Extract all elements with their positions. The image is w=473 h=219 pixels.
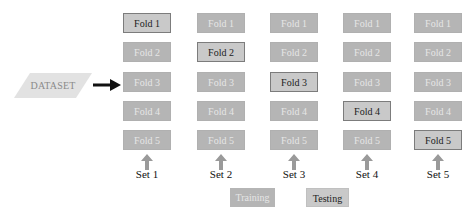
fold-box-set2-fold2: Fold 2 <box>197 42 245 62</box>
fold-box-set2-fold1: Fold 1 <box>197 13 245 33</box>
set-label-2: Set 2 <box>197 168 245 180</box>
fold-box-set3-fold1: Fold 1 <box>270 13 318 33</box>
fold-box-set1-fold4: Fold 4 <box>123 101 171 121</box>
fold-box-set5-fold4: Fold 4 <box>414 101 462 121</box>
fold-box-set1-fold3: Fold 3 <box>123 72 171 92</box>
fold-box-set1-fold2: Fold 2 <box>123 42 171 62</box>
set-label-1: Set 1 <box>123 168 171 180</box>
fold-box-set4-fold1: Fold 1 <box>343 13 391 33</box>
legend-training: Training <box>230 188 275 207</box>
fold-box-set5-fold2: Fold 2 <box>414 42 462 62</box>
fold-box-set4-fold2: Fold 2 <box>343 42 391 62</box>
fold-box-set3-fold3: Fold 3 <box>270 72 318 92</box>
fold-box-set2-fold5: Fold 5 <box>197 130 245 150</box>
dataset-label: DATASET <box>14 73 92 98</box>
right-arrow-icon <box>92 79 122 91</box>
fold-box-set3-fold4: Fold 4 <box>270 101 318 121</box>
set-label-4: Set 4 <box>343 168 391 180</box>
fold-box-set2-fold4: Fold 4 <box>197 101 245 121</box>
fold-box-set3-fold2: Fold 2 <box>270 42 318 62</box>
fold-box-set3-fold5: Fold 5 <box>270 130 318 150</box>
fold-box-set5-fold5: Fold 5 <box>414 130 462 150</box>
fold-box-set2-fold3: Fold 3 <box>197 72 245 92</box>
fold-box-set4-fold3: Fold 3 <box>343 72 391 92</box>
fold-box-set5-fold1: Fold 1 <box>414 13 462 33</box>
fold-box-set4-fold5: Fold 5 <box>343 130 391 150</box>
set-label-5: Set 5 <box>414 168 462 180</box>
fold-box-set4-fold4: Fold 4 <box>343 101 391 121</box>
fold-box-set1-fold5: Fold 5 <box>123 130 171 150</box>
fold-box-set5-fold3: Fold 3 <box>414 72 462 92</box>
fold-box-set1-fold1: Fold 1 <box>123 13 171 33</box>
set-label-3: Set 3 <box>270 168 318 180</box>
legend-testing: Testing <box>306 188 349 207</box>
dataset-node: DATASET <box>14 73 92 98</box>
